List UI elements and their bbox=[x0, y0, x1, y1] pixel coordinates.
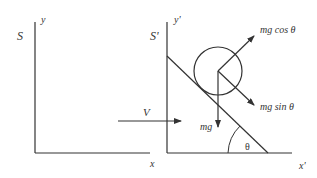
s-y-label: y bbox=[40, 14, 46, 25]
s-prime-x-label: x' bbox=[298, 160, 306, 171]
angle-label: θ bbox=[245, 141, 250, 152]
angle-arc bbox=[228, 126, 240, 153]
mg-cos-theta-label: mg cos θ bbox=[260, 24, 296, 35]
frame-s-label: S bbox=[17, 29, 23, 43]
s-prime-y-label: y' bbox=[173, 14, 181, 25]
mg-sin-theta-arrow bbox=[218, 71, 254, 105]
frame-s-prime-label: S' bbox=[150, 29, 159, 43]
velocity-label: V bbox=[143, 106, 151, 118]
mg-cos-theta-arrow bbox=[218, 36, 254, 71]
velocity-arrow: V bbox=[118, 106, 181, 121]
physics-diagram: S y x V S' y' x' θ mg cos θ mg sin θ mg bbox=[0, 0, 317, 178]
mg-sin-theta-label: mg sin θ bbox=[260, 101, 294, 112]
frame-s: S y x bbox=[17, 14, 155, 169]
s-x-label: x bbox=[149, 158, 155, 169]
mg-label: mg bbox=[200, 121, 212, 132]
